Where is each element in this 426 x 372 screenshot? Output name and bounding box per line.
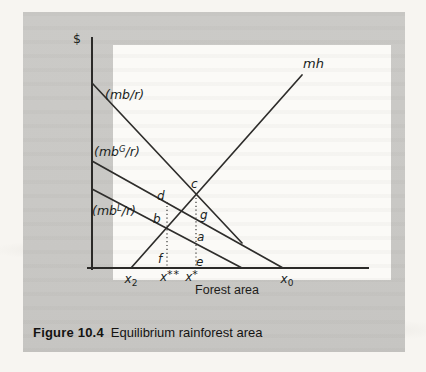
figure-caption: Figure 10.4Equilibrium rainforest area <box>33 325 263 340</box>
point-label-g: g <box>200 208 208 222</box>
point-label-e: e <box>196 255 203 269</box>
plot-area <box>113 45 391 280</box>
scanned-page: $ Forest area (mb/r) (mbG/r) (mbL/r) mh … <box>0 0 426 372</box>
x-tick-xstarstar: x** <box>160 270 180 284</box>
curve-label-mb-global: (mbG/r) <box>94 144 140 159</box>
x-tick-x0: x0 <box>281 272 294 286</box>
curve-label-mb-total: (mb/r) <box>105 87 144 102</box>
point-label-a: a <box>197 230 204 244</box>
curve-label-mh: mh <box>303 56 324 71</box>
x-tick-x2: x2 <box>125 272 138 286</box>
x-tick-xstar: x* <box>185 270 199 284</box>
curve-label-mb-local: (mbL/r) <box>92 203 136 218</box>
y-axis-label: $ <box>73 31 81 46</box>
point-label-b: b <box>153 212 161 226</box>
figure-caption-number: Figure 10.4 <box>33 325 104 340</box>
x-axis-label: Forest area <box>195 283 259 297</box>
point-label-c: c <box>191 177 198 191</box>
point-label-f: f <box>158 252 162 266</box>
figure-caption-title: Equilibrium rainforest area <box>111 325 263 340</box>
point-label-d: d <box>157 189 165 203</box>
figure-panel <box>23 12 405 352</box>
